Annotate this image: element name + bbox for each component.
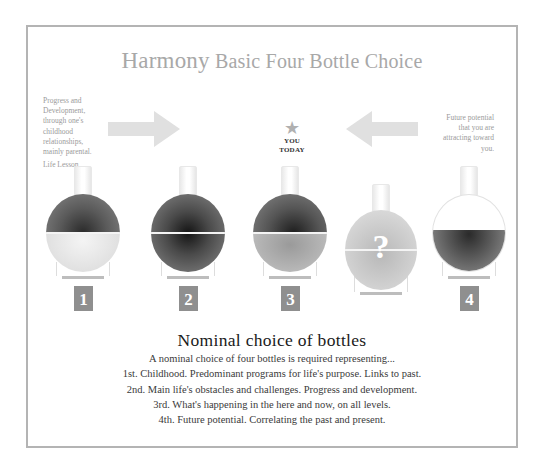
bottle-body: ? (345, 210, 417, 290)
arrow-right-icon (108, 111, 184, 147)
bottle-body (46, 194, 120, 272)
bottle-4: 4 (432, 166, 506, 316)
note-line: attracting toward (443, 133, 494, 142)
description-line: 2nd. Main life's obstacles and challenge… (28, 382, 516, 397)
bottle-number-1: 1 (74, 286, 93, 311)
section-description: A nominal choice of four bottles is requ… (28, 351, 516, 427)
arrow-left-icon (342, 111, 418, 147)
note-line: Progress and (43, 96, 82, 105)
you-label: YOU (267, 137, 317, 146)
divider-line (253, 232, 327, 234)
life-lesson-note: Progress and Development, through one's … (43, 96, 113, 170)
bottle-neck (281, 166, 299, 196)
note-line: Development, (43, 106, 85, 115)
title-rest: Basic Four Bottle Choice (210, 50, 423, 72)
you-today-marker: ★ YOU TODAY (267, 119, 317, 154)
description-line: 4th. Future potential. Correlating the p… (28, 412, 516, 427)
title-lead: Harmony (121, 48, 209, 73)
bottle-foot (167, 276, 209, 279)
bottle-foot (269, 276, 311, 279)
note-line: you. (481, 144, 494, 153)
bottle-neck (74, 166, 92, 196)
bottle-unknown: ? (344, 184, 418, 314)
note-line: relationships, (43, 137, 83, 146)
description-line: A nominal choice of four bottles is requ… (28, 351, 516, 366)
top-fill (253, 194, 327, 233)
description-line: 1st. Childhood. Predominant programs for… (28, 366, 516, 381)
bottle-2: 2 (151, 166, 225, 316)
bottle-body (432, 194, 506, 272)
note-line: mainly parental. (43, 147, 92, 156)
bottom-fill (46, 233, 120, 272)
question-mark-icon: ? (345, 228, 417, 266)
bottle-number-4: 4 (460, 286, 479, 311)
top-fill (46, 194, 120, 233)
diagram-frame: Harmony Basic Four Bottle Choice Progres… (26, 25, 518, 448)
note-line: through one's (43, 116, 83, 125)
bottle-foot (62, 276, 104, 279)
bottle-body (151, 194, 225, 272)
bottle-neck (372, 184, 390, 212)
bottle-neck (179, 166, 197, 196)
future-potential-note: Future potential that you are attracting… (414, 113, 494, 154)
bottle-1: 1 (46, 166, 120, 316)
bottle-number-2: 2 (179, 286, 198, 311)
note-line: Future potential (446, 113, 494, 122)
bottom-fill (433, 230, 505, 272)
page-title: Harmony Basic Four Bottle Choice (28, 48, 516, 74)
bottle-3: 3 (253, 166, 327, 316)
today-label: TODAY (267, 146, 317, 155)
section-heading: Nominal choice of bottles (28, 330, 516, 351)
divider-line (46, 232, 120, 234)
bottle-foot (360, 292, 402, 295)
bottle-foot (448, 276, 490, 279)
bottle-number-3: 3 (281, 286, 300, 311)
note-line: childhood (43, 127, 73, 136)
description-line: 3rd. What's happening in the here and no… (28, 397, 516, 412)
divider-line (151, 232, 225, 234)
note-line: that you are (459, 123, 494, 132)
star-icon: ★ (267, 119, 317, 137)
bottom-fill (253, 233, 327, 272)
bottle-neck (460, 166, 478, 196)
bottle-body (253, 194, 327, 272)
